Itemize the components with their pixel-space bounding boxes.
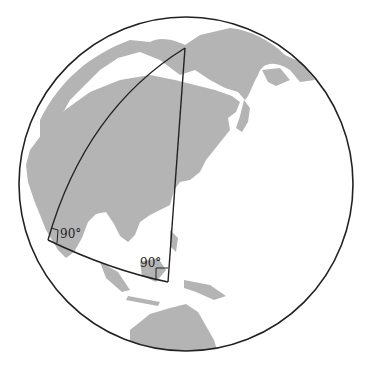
globe-diagram: 90° 90° [0,0,366,366]
angle-label-left: 90° [60,227,81,241]
globe-svg: 90° 90° [0,0,366,366]
land-australia [130,304,220,360]
angle-label-bottom: 90° [140,256,161,270]
land-sumatra [100,262,130,292]
land-masses [26,28,315,360]
land-java [126,296,160,306]
land-new-guinea [184,280,226,300]
land-kamchatka [262,68,290,86]
